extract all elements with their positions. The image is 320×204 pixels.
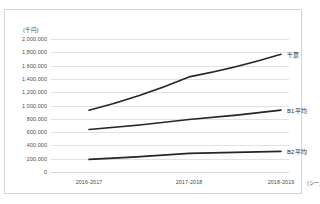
plot-area: 0200,000400,000600,000800,0001,000,0001,… [51,39,289,172]
series-line [89,54,281,110]
series-label-3: B2平均 [287,147,307,156]
x-axis-unit-label: (シーズン) [307,179,309,187]
x-axis-tick-label: 2016-2017 [76,179,103,185]
y-axis-tick-label: 1,000,000 [22,103,47,109]
y-axis-tick-label: 600,000 [27,129,47,135]
y-axis-tick-label: 1,400,000 [22,76,47,82]
series-label-2: B1平均 [287,106,307,115]
y-axis-unit-label: (千円) [23,26,39,34]
series-line [89,151,281,159]
series-line [89,110,281,129]
y-axis-tick-label: 0 [44,169,47,175]
y-axis-tick-label: 1,800,000 [22,49,47,55]
y-axis-tick-label: 1,200,000 [22,89,47,95]
y-axis-tick-label: 800,000 [27,116,47,122]
series-label-1: 千葉 [287,50,299,59]
y-axis-tick-label: 400,000 [27,142,47,148]
x-axis-tick-label: 2017-2018 [176,179,203,185]
chart-plot-wrapper: (千円) 0200,000400,000600,000800,0001,000,… [5,10,301,193]
chart-frame: (千円) 0200,000400,000600,000800,0001,000,… [4,9,302,194]
y-axis-tick-label: 1,600,000 [22,63,47,69]
y-axis-tick-label: 200,000 [27,156,47,162]
y-axis-tick-label: 2,000,000 [22,36,47,42]
gridline [51,172,289,173]
x-axis-tick-label: 2018-2019 [268,179,295,185]
series-lines-group [51,39,289,172]
